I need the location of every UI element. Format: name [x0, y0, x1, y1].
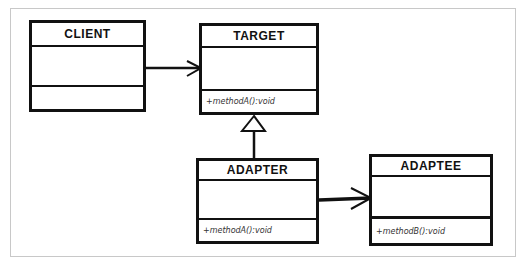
class-target: TARGET +methodA():void	[199, 23, 319, 115]
class-client: CLIENT	[29, 20, 146, 112]
class-attributes	[32, 47, 143, 87]
class-attributes	[199, 181, 316, 220]
class-operations: +methodA():void	[199, 220, 316, 241]
class-attributes	[202, 48, 316, 91]
class-attributes	[372, 177, 490, 219]
class-adapter: ADAPTER +methodA():void	[196, 158, 319, 244]
class-name: ADAPTER	[199, 161, 316, 181]
class-operations: +methodB():void	[372, 219, 490, 243]
class-adaptee: ADAPTEE +methodB():void	[369, 154, 493, 246]
class-operations: +methodA():void	[202, 91, 316, 112]
class-name: TARGET	[202, 26, 316, 48]
class-name: ADAPTEE	[372, 157, 490, 177]
class-operations	[32, 87, 143, 109]
class-name: CLIENT	[32, 23, 143, 47]
